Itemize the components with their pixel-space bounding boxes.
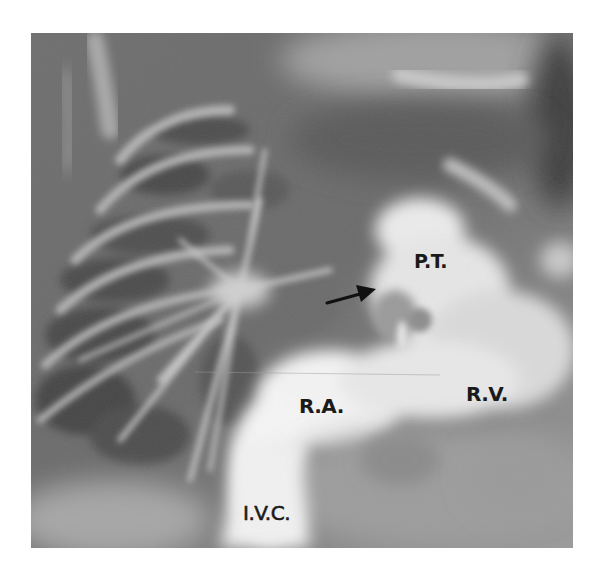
label-right-atrium: R.A. — [299, 396, 344, 416]
label-inferior-vena-cava: I.V.C. — [243, 503, 290, 523]
label-pulmonary-trunk: P.T. — [414, 252, 447, 271]
label-right-ventricle: R.V. — [466, 384, 508, 404]
radiograph-image — [10, 20, 599, 560]
angiogram-figure — [0, 0, 599, 566]
